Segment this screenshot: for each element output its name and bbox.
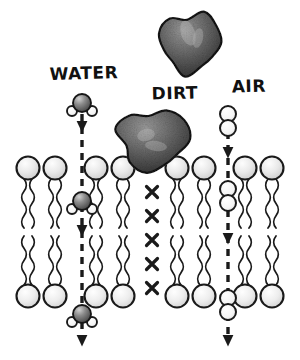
lipid-head <box>261 285 284 308</box>
oxygen-atom <box>73 305 91 323</box>
oxygen-atom <box>73 192 91 210</box>
label-dirt: DIRT <box>151 82 198 103</box>
lipid-head <box>44 157 67 180</box>
lipid-head <box>193 285 216 308</box>
air-molecule <box>220 106 236 136</box>
lipid-head <box>17 157 40 180</box>
lipid-head <box>166 285 189 308</box>
lipid-head <box>112 285 135 308</box>
label-air: AIR <box>232 76 267 97</box>
lipid-head <box>44 285 67 308</box>
lipid-head <box>193 157 216 180</box>
diagram-canvas: WATERDIRTAIR <box>0 0 300 360</box>
lipid-head <box>85 285 108 308</box>
air-atom <box>220 120 236 136</box>
air-molecule <box>220 290 236 320</box>
label-water: WATER <box>49 62 118 84</box>
membrane-permeability-diagram: WATERDIRTAIR <box>0 0 300 360</box>
lipid-head <box>234 285 257 308</box>
lipid-head <box>17 285 40 308</box>
lipid-head <box>234 157 257 180</box>
background <box>0 0 300 360</box>
lipid-head <box>261 157 284 180</box>
oxygen-atom <box>73 94 91 112</box>
air-atom <box>220 195 236 211</box>
air-atom <box>220 304 236 320</box>
lipid-head <box>85 157 108 180</box>
air-molecule <box>220 181 236 211</box>
